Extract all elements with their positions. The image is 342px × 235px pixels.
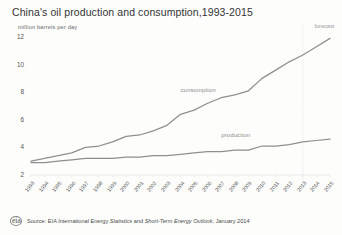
source-agency: EIA <box>48 218 57 224</box>
y-axis-tick-label: 10 <box>8 61 24 68</box>
source-conj: and <box>134 218 143 224</box>
source-prefix: Source: <box>27 218 46 224</box>
source-pub1: International Energy <box>58 218 108 224</box>
consumption-label: consumption <box>181 87 216 93</box>
source-note: Source: EIA International Energy Statist… <box>27 218 250 224</box>
y-axis-tick-label: 4 <box>8 143 24 150</box>
series-line-consumption <box>31 38 330 161</box>
chart-container: China's oil production and consumption,1… <box>0 0 342 235</box>
eia-logo-text: eia <box>10 216 22 226</box>
source-pub1-italic: Statistics <box>110 218 132 224</box>
y-axis-tick-label: 12 <box>8 33 24 40</box>
source-date: January 2014 <box>216 218 250 224</box>
y-axis-tick-label: 6 <box>8 116 24 123</box>
eia-logo: eia <box>10 216 22 226</box>
y-axis-tick-label: 8 <box>8 88 24 95</box>
plot-area <box>0 0 342 235</box>
forecast-label: forecast <box>314 23 334 29</box>
y-axis-tick-label: 2 <box>8 171 24 178</box>
source-pub2-italic: Short-Term Energy Outlook, <box>145 218 214 224</box>
production-label: production <box>221 132 250 138</box>
